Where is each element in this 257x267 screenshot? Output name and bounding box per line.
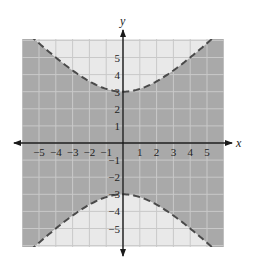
x-tick-label: 5 [204,146,210,158]
x-tick-label: 2 [154,146,160,158]
y-tick-label: 1 [115,120,121,132]
y-tick-label: 3 [115,86,121,98]
x-axis-label: x [235,136,242,150]
x-tick-label: −4 [50,146,62,158]
y-tick-label: −1 [108,154,120,166]
y-tick-label: −2 [108,171,120,183]
x-tick-label: 3 [171,146,177,158]
x-tick-label: −2 [84,146,96,158]
y-tick-label: 5 [115,52,121,64]
x-tick-label: 1 [137,146,143,158]
x-tick-label: −5 [33,146,45,158]
y-tick-label: 2 [115,103,121,115]
y-tick-label: −4 [108,205,120,217]
x-tick-label: 4 [187,146,193,158]
y-tick-label: −3 [108,188,120,200]
hyperbola-inequality-graph: x y −5−4−3−2−11234554321−1−2−3−4−5 [0,0,257,267]
y-axis-label: y [119,14,126,28]
y-tick-label: −5 [108,223,120,235]
plot-canvas: x y −5−4−3−2−11234554321−1−2−3−4−5 [0,0,257,267]
x-tick-label: −3 [67,146,79,158]
y-tick-label: 4 [115,69,121,81]
